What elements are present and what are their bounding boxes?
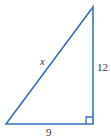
right-triangle-figure: x 12 9	[0, 0, 111, 139]
horizontal-leg-label: 9	[46, 127, 52, 138]
right-angle-marker	[86, 117, 93, 124]
triangle-outline	[6, 7, 93, 124]
triangle-drawing	[0, 0, 111, 139]
hypotenuse-label: x	[40, 56, 45, 67]
vertical-leg-label: 12	[97, 62, 108, 73]
